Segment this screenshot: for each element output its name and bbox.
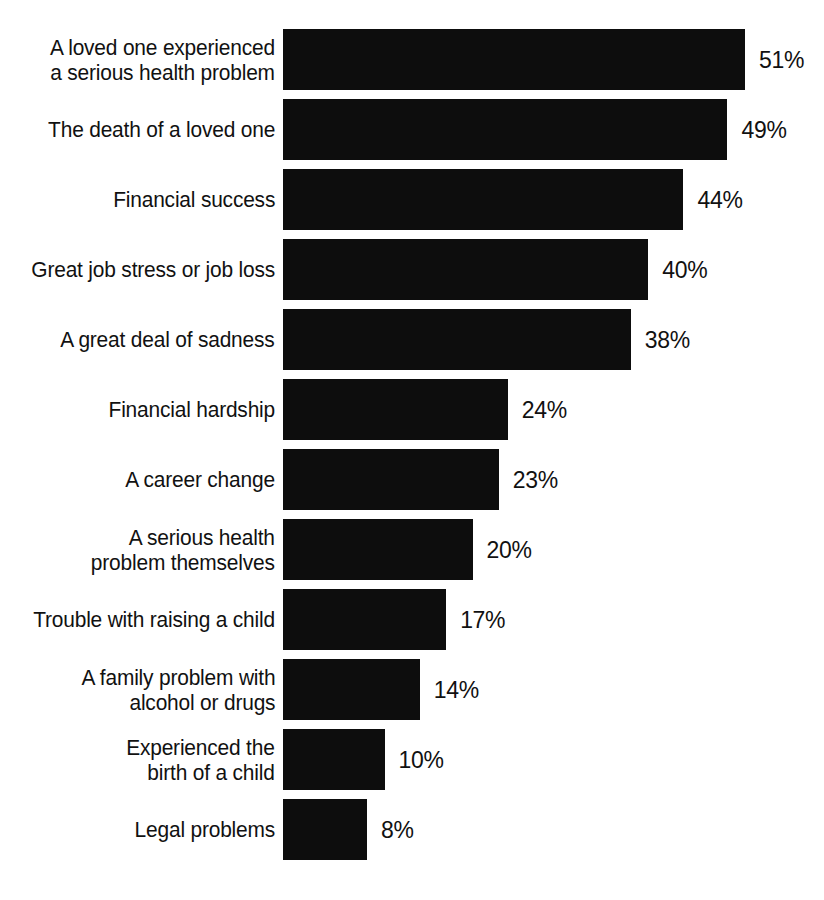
- category-label: A great deal of sadness: [5, 327, 275, 352]
- bar: [283, 379, 508, 440]
- bar-row: Experienced the birth of a child10%: [0, 729, 824, 790]
- bar: [283, 799, 367, 860]
- bar-row: Financial success44%: [0, 169, 824, 230]
- category-label: Experienced the birth of a child: [5, 734, 275, 784]
- category-label: A career change: [5, 467, 275, 492]
- bar-chart: A loved one experienced a serious health…: [0, 0, 824, 900]
- value-label: 38%: [645, 328, 690, 351]
- value-label: 49%: [741, 118, 786, 141]
- bar-row: The death of a loved one49%: [0, 99, 824, 160]
- bar: [283, 659, 420, 720]
- value-label: 24%: [522, 398, 567, 421]
- bar: [283, 449, 499, 510]
- bar: [283, 99, 727, 160]
- bar: [283, 589, 446, 650]
- plot-area: A loved one experienced a serious health…: [0, 0, 824, 900]
- category-label: Great job stress or job loss: [5, 257, 275, 282]
- value-label: 8%: [381, 818, 414, 841]
- bar-row: Legal problems8%: [0, 799, 824, 860]
- category-label: A family problem with alcohol or drugs: [5, 664, 275, 714]
- bar-row: A loved one experienced a serious health…: [0, 29, 824, 90]
- category-label: Legal problems: [5, 817, 275, 842]
- value-label: 44%: [697, 188, 742, 211]
- category-label: Financial success: [5, 187, 275, 212]
- bar-row: A great deal of sadness38%: [0, 309, 824, 370]
- bar: [283, 519, 473, 580]
- bar-row: Trouble with raising a child17%: [0, 589, 824, 650]
- bar-row: A family problem with alcohol or drugs14…: [0, 659, 824, 720]
- category-label: The death of a loved one: [5, 117, 275, 142]
- bar-row: A serious health problem themselves20%: [0, 519, 824, 580]
- bar: [283, 29, 745, 90]
- bar-row: Financial hardship24%: [0, 379, 824, 440]
- value-label: 17%: [460, 608, 505, 631]
- value-label: 23%: [513, 468, 558, 491]
- bar: [283, 169, 683, 230]
- value-label: 40%: [662, 258, 707, 281]
- value-label: 51%: [759, 48, 804, 71]
- category-label: A serious health problem themselves: [5, 524, 275, 574]
- bar-row: A career change23%: [0, 449, 824, 510]
- category-label: Financial hardship: [5, 397, 275, 422]
- bar: [283, 239, 648, 300]
- bar: [283, 729, 385, 790]
- category-label: Trouble with raising a child: [5, 607, 275, 632]
- value-label: 20%: [487, 538, 532, 561]
- bar-row: Great job stress or job loss40%: [0, 239, 824, 300]
- value-label: 10%: [399, 748, 444, 771]
- category-label: A loved one experienced a serious health…: [5, 34, 275, 84]
- value-label: 14%: [434, 678, 479, 701]
- bar: [283, 309, 631, 370]
